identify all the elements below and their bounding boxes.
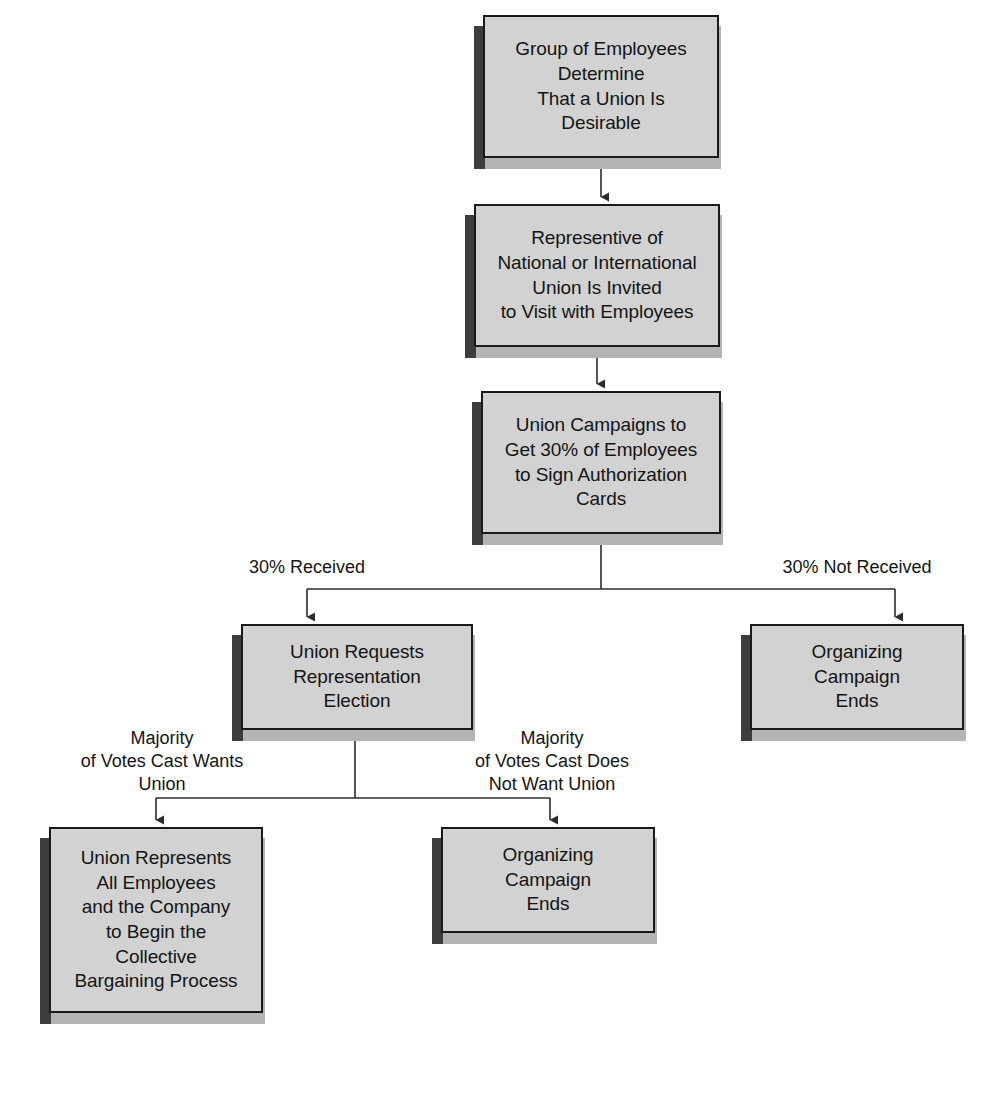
node-organizing-ends-right[interactable]: Organizing Campaign Ends	[750, 624, 964, 730]
flowchart-canvas: Group of Employees Determine That a Unio…	[0, 0, 1003, 1097]
node-union-represents[interactable]: Union Represents All Employees and the C…	[49, 827, 263, 1013]
edge-label-majority-not-wants: Majority of Votes Cast Does Not Want Uni…	[427, 727, 677, 796]
node-union-campaigns[interactable]: Union Campaigns to Get 30% of Employees …	[481, 391, 721, 534]
node-employees-determine[interactable]: Group of Employees Determine That a Unio…	[483, 15, 719, 158]
node-representative-invited[interactable]: Representive of National or Internationa…	[474, 204, 720, 347]
edge-label-pct-not-received: 30% Not Received	[737, 556, 977, 579]
edge-label-majority-wants: Majority of Votes Cast Wants Union	[37, 727, 287, 796]
edge-label-pct-received: 30% Received	[187, 556, 427, 579]
node-organizing-ends-bottom[interactable]: Organizing Campaign Ends	[441, 827, 655, 933]
node-union-requests-election[interactable]: Union Requests Representation Election	[241, 624, 473, 730]
